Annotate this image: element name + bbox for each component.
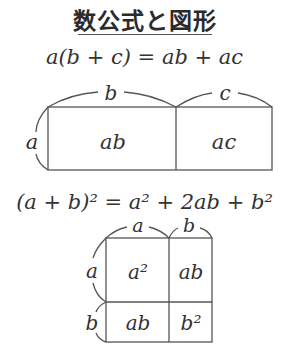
brace-top-b-left bbox=[169, 228, 178, 238]
brace-side-a-bottom bbox=[93, 283, 106, 302]
cell-ab-bottom: ab bbox=[126, 311, 151, 335]
brace-top-a-right bbox=[149, 227, 169, 238]
brace-a-bottom bbox=[36, 154, 48, 170]
cell-a-squared: a² bbox=[128, 260, 148, 284]
brace-b-left bbox=[48, 92, 98, 107]
label-side-a: a bbox=[86, 259, 98, 283]
brace-top-b-right bbox=[200, 228, 212, 238]
cell-b-squared: b² bbox=[181, 311, 202, 335]
label-c: c bbox=[219, 81, 230, 105]
brace-b-right bbox=[124, 92, 176, 107]
label-a: a bbox=[26, 130, 39, 154]
brace-side-a-top bbox=[93, 238, 106, 258]
brace-c-left bbox=[176, 93, 212, 107]
brace-top-a-left bbox=[106, 227, 127, 238]
area-diagrams: b c a ab ac a b a b a² ab ab b² bbox=[0, 0, 289, 352]
label-top-a: a bbox=[132, 214, 143, 236]
rect-outer bbox=[48, 107, 272, 170]
cell-ac: ac bbox=[212, 130, 237, 154]
diagram-distributive bbox=[36, 92, 272, 170]
label-top-b: b bbox=[183, 214, 195, 236]
label-b: b bbox=[105, 81, 118, 105]
cell-ab: ab bbox=[100, 130, 126, 154]
brace-a-top bbox=[36, 107, 48, 132]
cell-ab-top: ab bbox=[179, 260, 204, 284]
label-side-b: b bbox=[86, 311, 99, 335]
brace-c-right bbox=[238, 93, 272, 107]
